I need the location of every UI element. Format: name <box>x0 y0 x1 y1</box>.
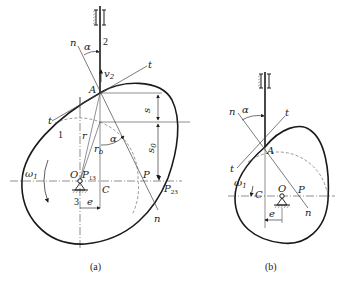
foot-point-label-b: C <box>255 189 263 200</box>
instant-center-13-label: P13 <box>81 169 96 182</box>
cam-mechanism-diagram: 2 v2 n n α t t A r rb α s <box>0 0 339 286</box>
contact-point-label-b: A <box>266 145 274 156</box>
pole-label-b: P <box>297 184 305 195</box>
instant-center-23-label: P23 <box>163 183 178 196</box>
normal-line <box>78 46 158 210</box>
initial-displacement-label: s0 <box>145 143 158 153</box>
tangent-bottom-label-b: t <box>230 163 235 174</box>
pressure-angle-top-label: α <box>84 41 91 52</box>
figure-b-caption: (b) <box>265 261 277 273</box>
foot-point-label: C <box>102 184 110 195</box>
angular-velocity-arrow-b <box>251 186 253 196</box>
radius-label: r <box>82 130 88 141</box>
normal-top-label-b: n <box>229 106 235 117</box>
figure-a: 2 v2 n n α t t A r rb α s <box>10 6 190 273</box>
pole-label: P <box>142 169 150 180</box>
base-circle-b <box>248 152 327 192</box>
velocity-label: v2 <box>104 68 115 81</box>
normal-top-label: n <box>70 37 76 48</box>
contact-point-label: A <box>88 84 96 95</box>
frame-label: 3 <box>74 196 79 207</box>
angular-velocity-label: ω1 <box>25 168 38 181</box>
follower-label: 2 <box>103 36 108 47</box>
pivot-label: O <box>70 169 78 180</box>
offset-label: e <box>87 196 93 207</box>
p-marker <box>157 176 161 181</box>
tangent-top-label-b: t <box>285 107 290 118</box>
figure-b: n n α t t A ω1 C O P e (b) <box>228 72 335 273</box>
normal-bottom-label: n <box>154 213 160 224</box>
normal-bottom-label-b: n <box>305 207 311 218</box>
cam-label: 1 <box>58 129 63 140</box>
tangent-line-b <box>237 116 285 168</box>
offset-label-b: e <box>269 208 275 219</box>
pressure-angle-mid-label: α <box>110 133 117 144</box>
pressure-angle-arc-b <box>242 116 264 121</box>
pressure-angle-label-b: α <box>242 104 249 115</box>
tangent-top-label: t <box>148 59 153 70</box>
displacement-label: s <box>141 108 152 113</box>
figure-a-caption: (a) <box>90 261 101 273</box>
pivot-label-b: O <box>278 183 286 194</box>
